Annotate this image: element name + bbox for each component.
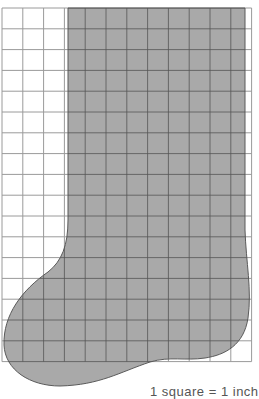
scale-caption: 1 square = 1 inch [150, 384, 259, 399]
